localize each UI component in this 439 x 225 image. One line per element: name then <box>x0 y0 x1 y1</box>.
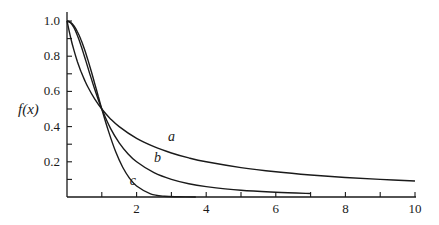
chart-canvas: 246810 0.20.40.60.81.0 f(x) abc <box>0 0 439 225</box>
y-tick-label: 0.6 <box>44 83 61 98</box>
curve-b <box>67 21 311 194</box>
curve-label-c: c <box>130 173 137 188</box>
y-tick-label: 0.4 <box>44 119 61 134</box>
curve-label-b: b <box>154 150 161 165</box>
x-tick-label: 2 <box>133 201 140 216</box>
curve-a <box>67 21 415 181</box>
x-tick-label: 10 <box>409 201 422 216</box>
y-tick-label: 0.2 <box>44 154 60 169</box>
y-tick-label: 1.0 <box>44 13 60 28</box>
x-tick-label: 8 <box>342 201 349 216</box>
axes: 246810 0.20.40.60.81.0 <box>44 12 422 216</box>
x-tick-label: 4 <box>203 201 210 216</box>
y-axis-label: f(x) <box>18 101 39 118</box>
x-ticks: 246810 <box>102 192 422 216</box>
series-group: abc <box>67 21 415 197</box>
x-tick-label: 6 <box>273 201 280 216</box>
curve-c <box>67 21 196 197</box>
y-tick-label: 0.8 <box>44 48 60 63</box>
y-ticks: 0.20.40.60.81.0 <box>44 13 72 179</box>
curve-label-a: a <box>168 129 175 144</box>
